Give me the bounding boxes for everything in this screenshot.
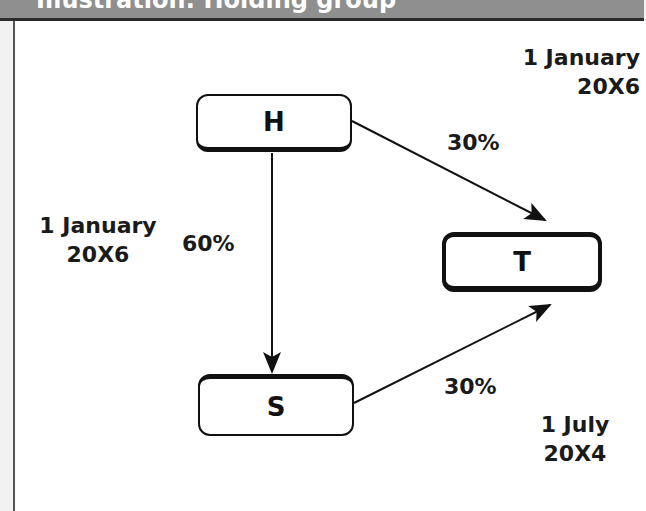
node-h: H [196,94,352,152]
date-h-to-t-line2: 20X6 [490,72,640,101]
date-h-to-s: 1 January 20X6 [28,211,168,269]
node-s-label: S [267,392,286,422]
pct-s-to-t: 30% [444,372,497,401]
date-s-to-t-line2: 20X4 [520,439,630,468]
pct-h-to-t: 30% [447,128,500,157]
date-h-to-s-line1: 1 January [28,211,168,240]
date-s-to-t: 1 July 20X4 [520,410,630,468]
date-h-to-s-line2: 20X6 [28,240,168,269]
node-s: S [198,374,354,436]
node-h-label: H [263,107,285,137]
date-s-to-t-line1: 1 July [520,410,630,439]
node-t-label: T [513,247,531,277]
date-h-to-t-line1: 1 January [490,43,640,72]
pct-h-to-s: 60% [182,229,235,258]
node-t: T [442,232,602,292]
date-h-to-t: 1 January 20X6 [490,43,640,101]
